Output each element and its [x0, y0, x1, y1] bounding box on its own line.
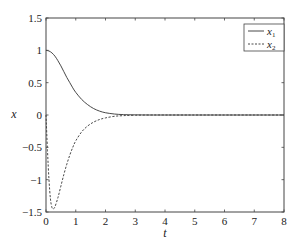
y-tick-label: 1.5 [28, 12, 42, 24]
x-tick-label: 1 [73, 215, 79, 227]
y-axis-label: x [10, 107, 17, 121]
y-tick-labels: −1.5−1−0.500.511.5 [22, 12, 42, 218]
line-chart: 012345678 −1.5−1−0.500.511.5 t x x1 x2 [0, 0, 301, 244]
x-tick-label: 0 [43, 215, 49, 227]
y-tick-label: −1 [30, 174, 42, 186]
y-tick-label: 1 [37, 44, 43, 56]
series-line-x2 [46, 115, 284, 209]
plot-curves [46, 50, 284, 209]
x-tick-label: 3 [133, 215, 139, 227]
x-tick-label: 5 [192, 215, 198, 227]
x-tick-label: 2 [103, 215, 109, 227]
x-tick-label: 8 [281, 215, 287, 227]
legend-box [244, 24, 284, 51]
y-tick-label: 0.5 [28, 77, 42, 89]
y-tick-label: −1.5 [22, 206, 42, 218]
legend: x1 x2 [244, 24, 284, 52]
x-tick-label: 7 [252, 215, 258, 227]
y-tick-label: 0 [37, 109, 43, 121]
x-tick-label: 6 [222, 215, 228, 227]
series-line-x1 [46, 50, 284, 115]
y-tick-label: −0.5 [22, 141, 42, 153]
x-axis-label: t [163, 226, 167, 240]
